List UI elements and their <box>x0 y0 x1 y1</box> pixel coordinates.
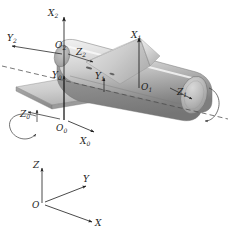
axis-x2-label: X2 <box>47 8 58 19</box>
axis-x0-line <box>68 121 94 132</box>
mechanism-body <box>16 38 212 121</box>
axis-x1-label: X1 <box>130 30 141 41</box>
ref-axis-y-label: Y <box>83 174 90 184</box>
reference-triad: Z Y X O <box>32 160 102 228</box>
origin-o0-label: O0 <box>56 123 67 134</box>
ref-axis-z-label: Z <box>32 160 40 170</box>
coordinate-frames-diagram: X2 Y2 Z2 O2 X1 <box>0 0 232 234</box>
ref-axis-x-line <box>45 205 92 222</box>
figure-root: X2 Y2 Z2 O2 X1 <box>0 0 232 234</box>
ref-origin-label: O <box>32 200 40 210</box>
ref-axis-y-line <box>45 186 86 202</box>
axis-z0-line <box>28 112 60 119</box>
ref-axis-x-label: X <box>94 218 102 228</box>
axis-y2-label: Y2 <box>7 33 17 44</box>
axis-x0-label: X0 <box>79 136 90 147</box>
